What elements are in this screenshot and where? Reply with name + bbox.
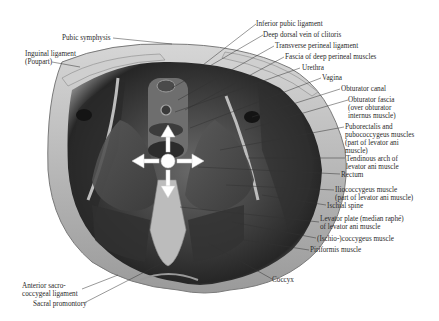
label-iliococcygeus: Iliococcygeus muscle (part of levator an… [335, 186, 413, 202]
label-obturator-fascia: Obturator fascia (over obturator internu… [348, 96, 396, 120]
label-puborectalis-pubococcygeus: Puborectalis and pubococcygeus muscles (… [345, 123, 414, 155]
label-deep-dorsal-vein: Deep dorsal vein of clitoris [263, 31, 341, 39]
label-urethra: Urethra [302, 64, 324, 72]
label-coccyx: Coccyx [272, 276, 294, 284]
label-anterior-sacrococcygeal-ligament: Anterior sacro- coccygeal ligament [22, 282, 78, 298]
label-vagina: Vagina [322, 74, 342, 82]
label-transverse-perineal-ligament: Transverse perineal ligament [275, 42, 358, 50]
label-levator-plate: Levator plate (median raphé) of levator … [320, 215, 404, 231]
label-inferior-pubic-ligament: Inferior pubic ligament [256, 20, 323, 28]
label-ischial-spine: Ischial spine [327, 202, 363, 210]
label-ischiococcygeus: (Ischio-)coccygeus muscle [317, 235, 394, 243]
label-fascia-deep-perineal: Fascia of deep perineal muscles [285, 53, 376, 61]
label-piriformis: Piriformis muscle [310, 246, 361, 254]
label-obturator-canal: Obturator canal [341, 85, 386, 93]
label-tendinous-arch: Tendinous arch of levator ani muscle [346, 155, 399, 171]
label-pubic-symphysis: Pubic symphysis [62, 34, 111, 42]
label-inguinal-ligament: Inguinal ligament (Poupart) [25, 50, 76, 66]
label-rectum: Rectum [341, 171, 363, 179]
label-sacral-promontory: Sacral promontory [33, 300, 87, 308]
